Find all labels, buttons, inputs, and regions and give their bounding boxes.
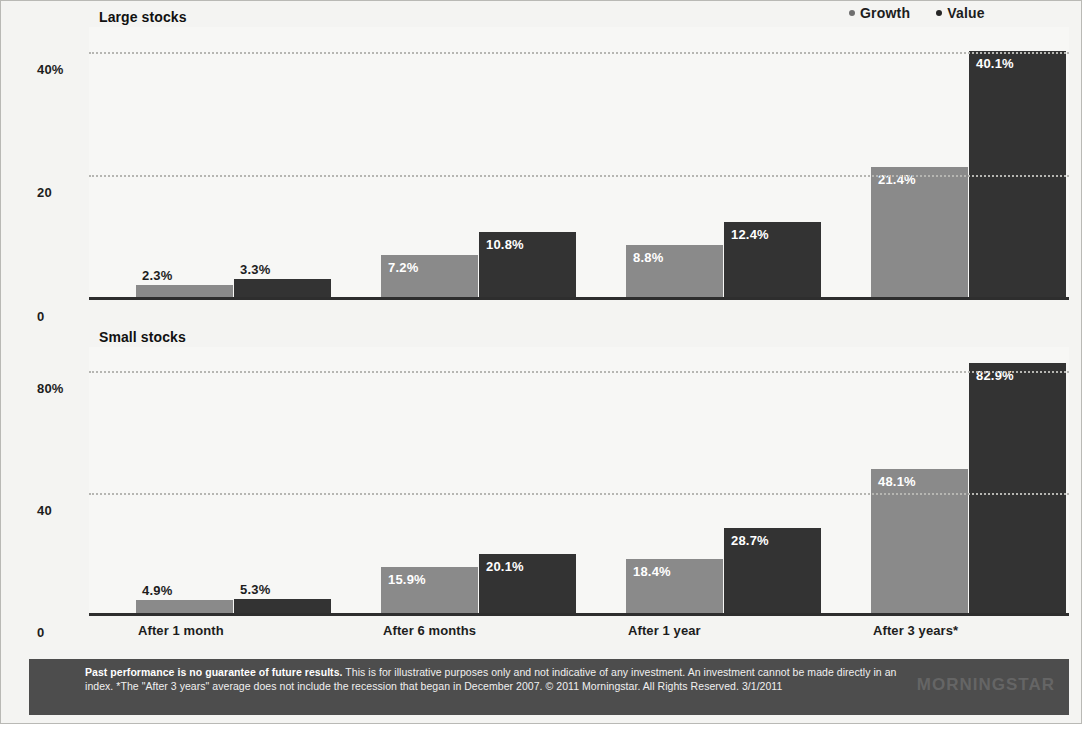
disclaimer-text: Past performance is no guarantee of futu… — [85, 666, 909, 693]
bar-growth-3: 18.4% — [626, 559, 723, 615]
chart-figure: Growth Value Large stocks 2.3%3.3%7.2%10… — [0, 0, 1082, 724]
x-axis-label-4: After 3 years* — [873, 623, 958, 638]
bar-value-label: 20.1% — [486, 559, 524, 574]
disclaimer-line1-rest: This is for illustrative purposes only a… — [343, 666, 790, 678]
bar-growth-4: 21.4% — [871, 167, 968, 299]
bar-value-label: 4.9% — [142, 583, 172, 598]
x-axis-label-1: After 1 month — [138, 623, 224, 638]
bar-value-label: 5.3% — [240, 582, 270, 597]
gridline — [89, 371, 1069, 373]
disclaimer-footer: Past performance is no guarantee of futu… — [29, 659, 1069, 715]
y-axis-tick-label: 80% — [37, 381, 107, 396]
x-axis-line — [89, 297, 1069, 300]
gridline — [89, 493, 1069, 495]
disclaimer-line3: Reserved. 3/1/2011 — [691, 680, 783, 692]
bar-value-label: 2.3% — [142, 268, 172, 283]
plot-area-large-stocks: 2.3%3.3%7.2%10.8%8.8%12.4%21.4%40.1% — [89, 27, 1069, 299]
bar-value-label: 7.2% — [388, 260, 418, 275]
x-axis-line — [89, 613, 1069, 616]
x-axis-label-3: After 1 year — [628, 623, 701, 638]
morningstar-logo: MORNINGSTAR — [917, 675, 1055, 695]
y-axis-tick-label: 20 — [37, 185, 107, 200]
bar-growth-4: 48.1% — [871, 469, 968, 615]
bar-growth-3: 8.8% — [626, 245, 723, 299]
bar-value-2: 20.1% — [479, 554, 576, 615]
legend-swatch-growth-icon — [849, 10, 855, 16]
gridline — [89, 52, 1069, 54]
bar-growth-2: 7.2% — [381, 255, 478, 300]
bar-value-4: 82.9% — [969, 363, 1066, 615]
bar-value-label: 40.1% — [976, 56, 1014, 71]
bar-value-label: 48.1% — [878, 474, 916, 489]
panel-title-large-stocks: Large stocks — [99, 9, 187, 25]
bar-group-small-stocks: 4.9%5.3%15.9%20.1%18.4%28.7%48.1%82.9% — [89, 347, 1069, 615]
legend-label-growth: Growth — [860, 5, 910, 21]
bar-value-label: 3.3% — [240, 262, 270, 277]
y-axis-tick-label: 40% — [37, 62, 107, 77]
bar-value-label: 82.9% — [976, 368, 1014, 383]
bar-value-label: 28.7% — [731, 533, 769, 548]
legend-item-growth: Growth — [849, 5, 910, 21]
bar-value-label: 12.4% — [731, 227, 769, 242]
bar-growth-2: 15.9% — [381, 567, 478, 615]
legend-swatch-value-icon — [936, 10, 942, 16]
bar-value-label: 21.4% — [878, 172, 916, 187]
y-axis-tick-label: 40 — [37, 503, 107, 518]
gridline — [89, 175, 1069, 177]
legend-label-value: Value — [947, 5, 985, 21]
bar-value-label: 8.8% — [633, 250, 663, 265]
x-axis-category-labels: After 1 monthAfter 6 monthsAfter 1 yearA… — [89, 623, 1069, 647]
bar-group-large-stocks: 2.3%3.3%7.2%10.8%8.8%12.4%21.4%40.1% — [89, 27, 1069, 299]
disclaimer-bold-lead: Past performance is no guarantee of futu… — [85, 666, 343, 678]
bar-value-3: 28.7% — [724, 528, 821, 615]
bar-value-label: 10.8% — [486, 237, 524, 252]
bar-value-label: 15.9% — [388, 572, 426, 587]
bar-value-2: 10.8% — [479, 232, 576, 299]
bar-value-3: 12.4% — [724, 222, 821, 299]
plot-area-small-stocks: 4.9%5.3%15.9%20.1%18.4%28.7%48.1%82.9% — [89, 347, 1069, 615]
x-axis-label-2: After 6 months — [383, 623, 476, 638]
bar-value-label: 18.4% — [633, 564, 671, 579]
panel-title-small-stocks: Small stocks — [99, 329, 186, 345]
chart-legend: Growth Value — [849, 5, 985, 21]
y-axis-tick-label: 0 — [37, 309, 107, 324]
legend-item-value: Value — [936, 5, 985, 21]
bar-value-1: 3.3% — [234, 279, 331, 299]
